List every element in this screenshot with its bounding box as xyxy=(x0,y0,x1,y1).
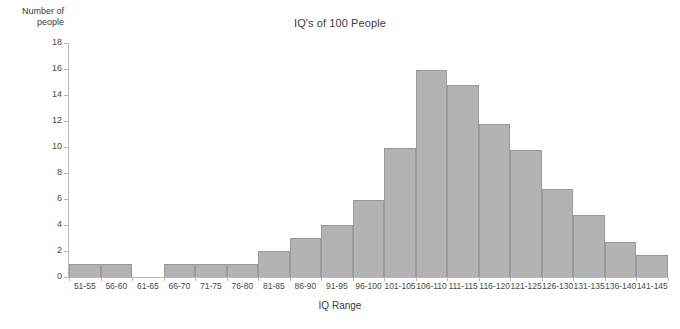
y-tick-label: 10 xyxy=(52,141,62,151)
x-tick-label: 106-110 xyxy=(416,281,448,291)
y-axis-title: Number of people xyxy=(2,6,64,28)
histogram-bar xyxy=(195,264,227,277)
histogram-bar xyxy=(69,264,101,277)
x-tick-label: 116-120 xyxy=(479,281,511,291)
x-tick-label: 111-115 xyxy=(447,281,479,291)
x-axis-tick-labels: 51-5556-6061-6566-7071-7576-8081-8586-90… xyxy=(68,281,668,295)
x-axis-line xyxy=(68,277,668,278)
x-tick-label: 96-100 xyxy=(353,281,385,291)
histogram-bar xyxy=(258,251,290,277)
y-tick-label: 8 xyxy=(57,167,62,177)
y-tick-label: 4 xyxy=(57,219,62,229)
y-tick-label: 0 xyxy=(57,271,62,281)
histogram-bar xyxy=(510,150,542,277)
y-axis-title-line-1: Number of xyxy=(2,6,64,17)
x-tick-label: 71-75 xyxy=(195,281,227,291)
histogram-bar xyxy=(384,148,416,277)
y-tick-label: 16 xyxy=(52,63,62,73)
x-tick-label: 136-140 xyxy=(605,281,637,291)
chart-title: IQ's of 100 People xyxy=(0,17,680,29)
y-tick-label: 14 xyxy=(52,89,62,99)
histogram-bar xyxy=(573,215,605,277)
x-tick-label: 81-85 xyxy=(258,281,290,291)
histogram-bar xyxy=(447,85,479,277)
histogram-bar xyxy=(636,255,668,277)
y-axis-title-line-2: people xyxy=(2,17,64,28)
histogram-bar xyxy=(290,238,322,277)
x-tick-label: 66-70 xyxy=(164,281,196,291)
x-tick-label: 76-80 xyxy=(227,281,259,291)
histogram-bar xyxy=(227,264,259,277)
y-tick-label: 18 xyxy=(52,37,62,47)
x-tick-label: 126-130 xyxy=(542,281,574,291)
histogram-bar xyxy=(605,242,637,277)
x-tick-label: 56-60 xyxy=(101,281,133,291)
plot-area: 024681012141618 xyxy=(68,43,668,277)
histogram-bar xyxy=(542,189,574,277)
x-tick-label: 86-90 xyxy=(290,281,322,291)
x-axis-title: IQ Range xyxy=(0,300,680,311)
x-tick-label: 121-125 xyxy=(510,281,542,291)
histogram-bar xyxy=(353,200,385,277)
bars-layer xyxy=(69,43,668,277)
histogram-bar xyxy=(101,264,133,277)
y-tick-label: 6 xyxy=(57,193,62,203)
x-tick-label: 51-55 xyxy=(69,281,101,291)
x-tick-label: 131-135 xyxy=(573,281,605,291)
x-tick-label: 101-105 xyxy=(384,281,416,291)
y-tick-label: 2 xyxy=(57,245,62,255)
y-tick-label: 12 xyxy=(52,115,62,125)
x-tick-label: 91-95 xyxy=(321,281,353,291)
histogram-chart: IQ's of 100 People Number of people 0246… xyxy=(0,0,680,329)
x-tick-mark xyxy=(668,277,669,281)
histogram-bar xyxy=(321,225,353,277)
histogram-bar xyxy=(416,70,448,277)
x-tick-label: 61-65 xyxy=(132,281,164,291)
x-tick-label: 141-145 xyxy=(636,281,668,291)
histogram-bar xyxy=(164,264,196,277)
histogram-bar xyxy=(479,124,511,277)
